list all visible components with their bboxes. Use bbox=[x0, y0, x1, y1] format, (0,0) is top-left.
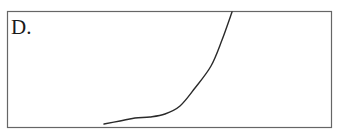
plot-frame bbox=[8, 12, 332, 128]
panel-label: D. bbox=[11, 15, 31, 39]
chart-panel: D. bbox=[0, 0, 337, 138]
